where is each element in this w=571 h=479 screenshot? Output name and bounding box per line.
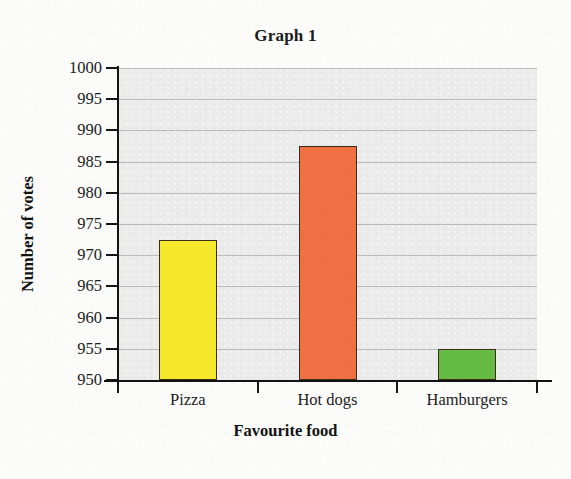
y-axis-tick [106, 161, 117, 163]
x-axis-category-label: Pizza [118, 390, 258, 410]
y-axis-tick [106, 129, 117, 131]
y-axis-tick-label: 955 [50, 339, 102, 359]
y-axis-tick-label: 1000 [50, 58, 102, 78]
y-axis-tick-labels: 1000995990985980975970965960955950 [46, 0, 102, 479]
y-axis-tick-label: 950 [50, 370, 102, 390]
x-axis-title: Favourite food [0, 421, 571, 441]
y-axis-tick [106, 223, 117, 225]
y-axis-tick [106, 379, 117, 381]
bar-pizza [159, 240, 217, 380]
bar-hamburgers [438, 349, 496, 380]
y-axis-tick-label: 990 [50, 120, 102, 140]
y-axis-tick [106, 317, 117, 319]
y-axis-tick-label: 980 [50, 183, 102, 203]
y-axis-tick-label: 975 [50, 214, 102, 234]
y-axis-tick-label: 960 [50, 308, 102, 328]
gridline [118, 99, 537, 100]
gridline [118, 68, 537, 69]
plot-area [118, 68, 537, 380]
y-axis-tick-label: 995 [50, 89, 102, 109]
y-axis-title: Number of votes [18, 134, 38, 334]
y-axis-tick-label: 970 [50, 245, 102, 265]
y-axis-tick [106, 98, 117, 100]
x-axis-category-label: Hot dogs [258, 390, 398, 410]
y-axis-tick [106, 254, 117, 256]
x-axis-line [104, 380, 552, 382]
y-axis-tick [106, 67, 117, 69]
y-axis-tick [106, 192, 117, 194]
x-axis-category-label: Hamburgers [397, 390, 537, 410]
bar-chart-figure: Graph 1 10009959909859809759709659609559… [0, 0, 571, 479]
y-axis-tick-label: 965 [50, 276, 102, 296]
y-axis-tick [106, 348, 117, 350]
y-axis-line [117, 66, 119, 382]
gridline [118, 130, 537, 131]
bar-hot-dogs [299, 146, 357, 380]
y-axis-tick-label: 985 [50, 152, 102, 172]
y-axis-tick [106, 285, 117, 287]
